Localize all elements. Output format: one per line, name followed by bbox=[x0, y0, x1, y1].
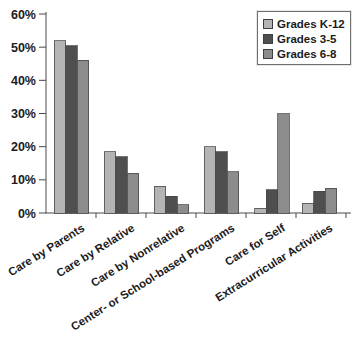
legend-item: Grades 3-5 bbox=[263, 31, 345, 46]
bar-grades-k-12-2 bbox=[154, 186, 166, 213]
legend-swatch-icon bbox=[263, 34, 273, 44]
bar-grades-6-8-5 bbox=[325, 188, 337, 213]
legend-item: Grades K-12 bbox=[263, 16, 345, 31]
y-tick-label: 60% bbox=[11, 8, 36, 22]
bar-grades-6-8-0 bbox=[77, 60, 89, 213]
bar-grades-6-8-3 bbox=[227, 172, 239, 213]
bar-grades-k-12-0 bbox=[54, 41, 66, 213]
y-tick-label: 50% bbox=[11, 41, 36, 55]
y-tick-label: 30% bbox=[11, 107, 36, 121]
bar-grades-3-5-1 bbox=[116, 157, 128, 213]
y-tick-label: 20% bbox=[11, 140, 36, 154]
legend-item-label: Grades 6-8 bbox=[277, 48, 336, 60]
legend-swatch-icon bbox=[263, 19, 273, 29]
bar-grades-3-5-5 bbox=[314, 191, 326, 213]
bar-grades-3-5-2 bbox=[166, 196, 178, 213]
bar-grades-6-8-2 bbox=[177, 205, 189, 213]
bar-grades-k-12-1 bbox=[104, 152, 116, 213]
bar-grades-3-5-3 bbox=[216, 152, 228, 213]
legend-swatch-icon bbox=[263, 49, 273, 59]
chart-legend: Grades K-12Grades 3-5Grades 6-8 bbox=[257, 11, 351, 65]
bar-grades-6-8-1 bbox=[127, 173, 139, 213]
legend-item: Grades 6-8 bbox=[263, 46, 345, 61]
legend-item-label: Grades 3-5 bbox=[277, 33, 336, 45]
y-tick-label: 10% bbox=[11, 173, 36, 187]
legend-item-label: Grades K-12 bbox=[277, 18, 345, 30]
y-tick-label: 40% bbox=[11, 74, 36, 88]
bar-chart-figure: 0%10%20%30%40%50%60%Care by ParentsCare … bbox=[0, 0, 360, 357]
bar-grades-3-5-0 bbox=[66, 46, 78, 213]
bar-grades-3-5-4 bbox=[266, 190, 278, 213]
y-tick-label: 0% bbox=[18, 207, 36, 221]
bar-grades-k-12-3 bbox=[204, 147, 216, 213]
bar-grades-6-8-4 bbox=[278, 114, 290, 214]
bar-grades-k-12-5 bbox=[302, 203, 314, 213]
bar-grades-k-12-4 bbox=[255, 208, 267, 213]
